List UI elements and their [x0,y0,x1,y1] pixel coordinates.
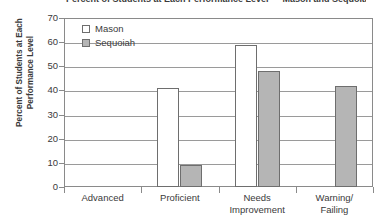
legend-item-mason: Mason [82,22,135,35]
bar-group [296,18,373,187]
x-category-label-line: Proficient [141,192,218,204]
y-tick-label: 50 [32,60,58,71]
y-tick-label: 20 [32,133,58,144]
legend-item-sequoiah: Sequoiah [82,36,135,49]
legend-label-mason: Mason [95,23,124,34]
y-tick-label: 70 [32,12,58,23]
x-category-label: Warning/Failing [296,192,373,215]
chart-title: Percent of Students at Each Performance … [66,0,366,4]
bar-mason-1 [157,88,179,187]
bar-sequoiah-1 [180,165,202,187]
x-category-label-line: Failing [296,204,373,216]
x-category-label-line: Advanced [64,192,141,204]
y-tick-label: 0 [32,181,58,192]
y-axis-title-line-1: Percent of Students at Each [15,0,26,158]
bar-group [141,18,218,187]
legend-swatch-sequoiah [82,39,90,47]
legend-swatch-mason [82,25,90,33]
bar-sequoiah-2 [258,71,280,187]
y-tick-label: 60 [32,36,58,47]
bar-sequoiah-3 [335,86,357,187]
x-category-label: Advanced [64,192,141,204]
bar-chart: Percent of Students at Each Performance … [0,0,383,220]
bar-group [219,18,296,187]
x-category-label: Proficient [141,192,218,204]
x-category-label-line: Needs [219,192,296,204]
x-category-label-line: Improvement [219,204,296,216]
legend: Mason Sequoiah [82,22,135,50]
y-tick-label: 30 [32,109,58,120]
x-tick-mark [373,187,374,193]
legend-label-sequoiah: Sequoiah [95,37,135,48]
x-category-label-line: Warning/ [296,192,373,204]
y-tick-label: 40 [32,84,58,95]
bar-mason-2 [235,45,257,187]
x-category-label: NeedsImprovement [219,192,296,215]
y-tick-label: 10 [32,157,58,168]
